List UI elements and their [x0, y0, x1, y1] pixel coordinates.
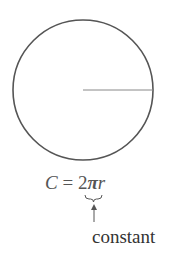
- formula-pi: π: [87, 172, 97, 193]
- arrow-head-icon: [91, 204, 97, 210]
- brace-icon: [85, 195, 102, 202]
- formula-var: r: [98, 172, 105, 193]
- formula-coeff: 2: [78, 172, 88, 193]
- formula-equals: =: [58, 172, 78, 193]
- circumference-formula: C = 2πr: [45, 172, 105, 194]
- formula-lhs: C: [45, 172, 58, 193]
- constant-label: constant: [92, 226, 155, 248]
